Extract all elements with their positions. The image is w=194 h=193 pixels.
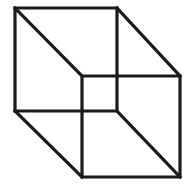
figure-background (0, 0, 194, 193)
figure-canvas (0, 0, 194, 193)
necker-cube-figure (0, 0, 194, 193)
